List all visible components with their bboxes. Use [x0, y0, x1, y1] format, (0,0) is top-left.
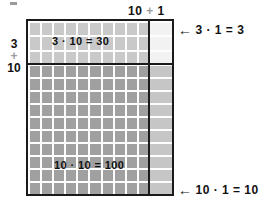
- left-dimension-label: 3 + 10: [4, 38, 24, 74]
- top-dimension-second: 1: [158, 4, 165, 18]
- grid-lines-bottom-left: [28, 64, 149, 194]
- top-dimension-operator: +: [146, 4, 154, 18]
- region-top-left-label: 3 · 10 = 30: [52, 35, 109, 47]
- artifact-speck-icon: [10, 2, 17, 5]
- arrow-left-icon: ←: [178, 24, 193, 36]
- region-bottom-left: [28, 64, 149, 194]
- left-dimension-second: 10: [4, 62, 24, 74]
- region-bottom-left-label: 10 · 10 = 100: [54, 159, 124, 171]
- arrow-left-icon: ←: [178, 184, 193, 196]
- grid-lines-bottom-right: [149, 64, 172, 194]
- callout-top-right-text: 3 · 1 = 3: [196, 23, 245, 37]
- vertical-separator: [148, 21, 150, 194]
- callout-bottom-right-text: 10 · 1 = 10: [196, 183, 259, 197]
- callout-top-right: ← 3 · 1 = 3: [178, 23, 244, 37]
- area-model-diagram: 10 + 1 3 + 10 3 · 10 = 30 10 · 10 = 100 …: [0, 0, 274, 209]
- region-bottom-right: [149, 64, 172, 194]
- grid-lines-top-right: [149, 21, 172, 64]
- horizontal-separator: [28, 63, 172, 65]
- top-dimension-first: 10: [128, 4, 142, 18]
- callout-bottom-right: ← 10 · 1 = 10: [178, 183, 259, 197]
- model-box: 3 · 10 = 30 10 · 10 = 100: [26, 19, 174, 196]
- region-top-right: [149, 21, 172, 64]
- top-dimension-label: 10 + 1: [128, 4, 165, 18]
